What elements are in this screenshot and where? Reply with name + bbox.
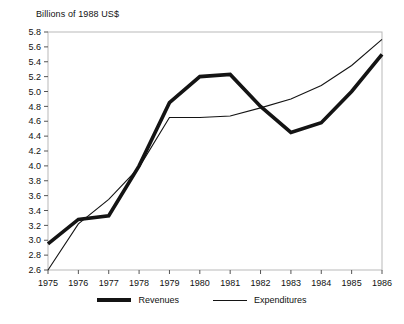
legend-entry-revenues: Revenues: [97, 295, 179, 305]
x-tick-label: 1982: [251, 278, 271, 288]
x-tick-label: 1985: [342, 278, 362, 288]
y-tick-label: 5.0: [28, 87, 41, 97]
chart-figure: Billions of 1988 US$ 5.85.65.45.25.04.84…: [0, 0, 404, 324]
y-tick-label: 3.2: [28, 221, 41, 231]
legend-label: Expenditures: [254, 295, 307, 305]
x-tick-label: 1979: [159, 278, 179, 288]
x-tick-label: 1983: [281, 278, 301, 288]
y-tick-label: 4.4: [28, 131, 41, 141]
y-tick-label: 3.8: [28, 176, 41, 186]
y-tick-label: 4.2: [28, 146, 41, 156]
x-tick-label: 1984: [311, 278, 331, 288]
x-tick-label: 1976: [68, 278, 88, 288]
plot-frame: [48, 32, 382, 270]
y-tick-label: 3.4: [28, 206, 41, 216]
y-tick-label: 4.6: [28, 116, 41, 126]
series-line-revenues: [48, 54, 382, 244]
y-tick-label: 2.6: [28, 265, 41, 275]
y-tick-label: 5.4: [28, 57, 41, 67]
x-tick-label: 1977: [99, 278, 119, 288]
x-tick-label: 1980: [190, 278, 210, 288]
chart-legend: RevenuesExpenditures: [0, 295, 404, 305]
legend-swatch-icon: [213, 300, 247, 301]
y-tick-label: 3.6: [28, 191, 41, 201]
x-tick-label: 1978: [129, 278, 149, 288]
y-tick-label: 2.8: [28, 250, 41, 260]
x-tick-label: 1981: [220, 278, 240, 288]
y-tick-label: 5.6: [28, 42, 41, 52]
series-lines: [48, 39, 382, 270]
y-tick-label: 5.8: [28, 27, 41, 37]
legend-label: Revenues: [138, 295, 179, 305]
x-tick-label: 1986: [372, 278, 392, 288]
y-tick-label: 5.2: [28, 72, 41, 82]
y-axis: 5.85.65.45.25.04.84.64.44.24.03.83.63.43…: [28, 27, 48, 275]
line-chart-plot: 5.85.65.45.25.04.84.64.44.24.03.83.63.43…: [0, 0, 404, 324]
y-tick-label: 4.8: [28, 102, 41, 112]
legend-swatch-icon: [97, 298, 131, 302]
legend-entry-expenditures: Expenditures: [213, 295, 307, 305]
x-axis: 1975197619771978197919801981198219831984…: [38, 270, 392, 288]
y-tick-label: 4.0: [28, 161, 41, 171]
y-tick-label: 3.0: [28, 235, 41, 245]
x-tick-label: 1975: [38, 278, 58, 288]
